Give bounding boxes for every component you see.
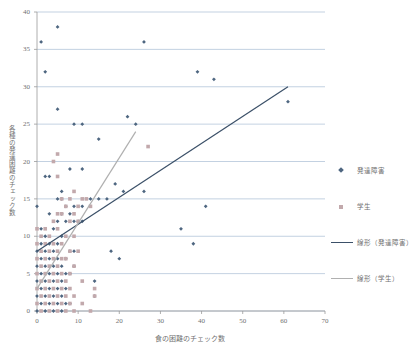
data-point: [43, 309, 47, 313]
data-point: [35, 309, 39, 313]
data-point: [35, 204, 39, 208]
data-point: [72, 212, 76, 216]
data-point: [72, 249, 76, 253]
legend-label: 線形（学生）: [357, 273, 399, 283]
data-point: [93, 287, 97, 291]
data-point: [72, 309, 76, 313]
data-point: [64, 219, 68, 223]
data-point: [80, 302, 84, 306]
data-point: [56, 264, 60, 268]
y-tick-label: 10: [14, 232, 30, 240]
data-point: [60, 242, 64, 246]
data-point: [142, 190, 146, 194]
data-point: [68, 167, 72, 171]
data-point: [93, 279, 97, 283]
data-point: [72, 219, 76, 223]
data-point: [56, 107, 60, 111]
legend-label: 発達障害: [357, 165, 385, 175]
data-point: [68, 287, 72, 291]
data-point: [35, 302, 39, 306]
data-point: [56, 287, 60, 291]
data-point: [146, 145, 150, 149]
data-point: [64, 257, 68, 261]
data-point: [35, 294, 39, 298]
x-axis-title: 食の困難のチェック数: [120, 333, 260, 343]
x-tick-label: 10: [69, 317, 87, 325]
data-point: [48, 234, 52, 238]
data-point: [56, 272, 60, 276]
data-point: [48, 294, 52, 298]
x-tick-label: 20: [110, 317, 128, 325]
data-point: [47, 272, 51, 276]
data-point: [89, 309, 93, 313]
data-point: [68, 249, 72, 253]
legend-item[interactable]: 発達障害: [331, 163, 385, 177]
y-tick-label: 30: [14, 83, 30, 91]
data-point: [142, 40, 146, 44]
data-point: [48, 309, 52, 313]
scatter-chart: 各種の発達困難のチェック数 食の困難のチェック数 051015202530354…: [0, 0, 414, 351]
data-point: [97, 197, 101, 201]
data-point: [60, 309, 64, 313]
data-point: [68, 197, 72, 201]
data-point: [35, 279, 39, 283]
data-point: [35, 264, 39, 268]
data-point: [43, 234, 47, 238]
data-point: [80, 279, 84, 283]
data-point: [286, 100, 290, 104]
data-point: [47, 302, 51, 306]
legend-item[interactable]: 学生: [331, 199, 371, 213]
data-point: [134, 122, 138, 126]
data-point: [35, 257, 39, 261]
data-point: [64, 279, 68, 283]
data-point: [39, 294, 43, 298]
data-point: [117, 257, 121, 261]
legend-item[interactable]: 線形（学生）: [331, 271, 399, 285]
data-point: [56, 249, 60, 253]
data-point: [60, 287, 64, 291]
data-point: [204, 204, 208, 208]
data-point: [52, 160, 56, 164]
data-point: [56, 175, 60, 179]
legend-marker-icon: [331, 273, 353, 283]
data-point: [68, 220, 72, 224]
data-point: [56, 219, 60, 223]
data-point: [122, 190, 126, 194]
data-point: [47, 175, 51, 179]
data-point: [35, 272, 39, 276]
data-point: [43, 227, 47, 231]
data-point: [68, 272, 72, 276]
data-point: [97, 137, 101, 141]
x-tick-label: 50: [234, 317, 252, 325]
data-point: [72, 264, 76, 268]
data-point: [43, 257, 47, 261]
data-point: [80, 204, 84, 208]
data-point: [60, 190, 64, 194]
data-point: [43, 264, 47, 268]
y-tick-label: 25: [14, 120, 30, 128]
y-tick-label: 5: [14, 270, 30, 278]
data-point: [35, 227, 39, 231]
y-tick-label: 15: [14, 195, 30, 203]
data-point: [80, 122, 84, 126]
data-point: [76, 205, 80, 209]
x-tick-label: 0: [28, 317, 46, 325]
legend-marker-icon: [331, 201, 353, 211]
data-point: [56, 302, 60, 306]
data-point: [47, 212, 51, 216]
data-point: [64, 287, 68, 291]
data-point: [113, 182, 117, 186]
data-point: [191, 242, 195, 246]
data-point: [48, 279, 52, 283]
data-point: [105, 197, 109, 201]
data-point: [64, 309, 68, 313]
data-point: [52, 294, 56, 298]
data-point: [72, 294, 76, 298]
data-point: [43, 175, 47, 179]
x-tick-label: 40: [193, 317, 211, 325]
legend-item[interactable]: 線形（発達障害）: [331, 235, 413, 249]
data-point: [60, 264, 64, 268]
data-point: [39, 287, 43, 291]
data-point: [64, 294, 68, 298]
data-point: [39, 302, 43, 306]
